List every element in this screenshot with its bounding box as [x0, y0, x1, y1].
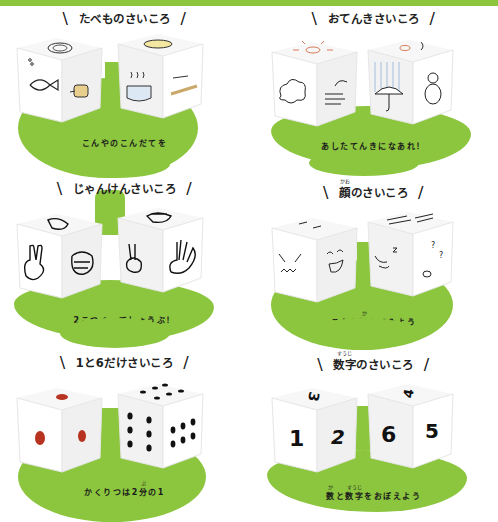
die-number: 5 [425, 419, 439, 443]
die-food-right [113, 26, 208, 121]
ruby-kao: 顔かお [339, 184, 351, 200]
backslash-deco: \ [60, 353, 66, 372]
panel-number-dice: \数字すうじのさいころ/ 3 1 2 4 6 5 数かずと数字すうじをおぼえよう [249, 340, 498, 510]
ruby-suuji: 数字すうじ [333, 356, 356, 372]
die-one-pips [12, 380, 107, 475]
panel-face-dice: \顔かおのさいころ/ ?? こんな顔かおしてみよう [249, 170, 498, 340]
die-face-right: ?? [363, 204, 458, 299]
red-pip [56, 394, 68, 400]
die-weather-left [267, 34, 362, 129]
panel-title: \1と6だけさいころ/ [0, 352, 249, 371]
panel-title: \じゃんけんさいころ/ [0, 178, 249, 197]
green-background-blob-top [309, 318, 419, 348]
ruby-suuji: 数字すうじ [345, 490, 364, 501]
caption: 数かずと数字すうじをおぼえよう [249, 490, 498, 501]
svg-text:?: ? [431, 241, 435, 250]
green-background-blob-top [60, 150, 170, 178]
panel-janken-dice: \じゃんけんさいころ/ 2こつくってしょうぶ！ [0, 170, 249, 340]
backslash-deco: \ [63, 9, 69, 28]
panel-1-and-6-dice: \1と6だけさいころ/ [0, 340, 249, 510]
backslash-deco: \ [312, 9, 318, 28]
slash-deco: / [186, 179, 192, 198]
panel-title: \たべものさいころ/ [0, 8, 249, 27]
slash-deco: / [418, 183, 424, 202]
die-food-left [12, 30, 107, 125]
die-face-left [267, 210, 362, 305]
die-weather-right [363, 32, 458, 127]
red-pip [78, 430, 86, 442]
backslash-deco: \ [323, 183, 329, 202]
green-background-blob-top [60, 318, 170, 348]
panel-title: \おてんきさいころ/ [249, 8, 498, 27]
die-six-pips [113, 376, 208, 471]
slash-deco: / [424, 355, 430, 374]
die-number: 2 [331, 425, 345, 449]
ruby-kazu: 数かず [326, 490, 336, 501]
svg-text:?: ? [439, 251, 443, 260]
ruby-bun: 分ぶん [139, 486, 149, 497]
die-janken-left [12, 206, 107, 301]
green-background-blob-top [309, 150, 419, 176]
red-pip [35, 431, 45, 445]
caption-line-1: こんやのこんだてを [0, 137, 249, 148]
die-number: 6 [381, 422, 396, 447]
caption: かくりつは2分ぶんの1 [0, 486, 249, 497]
panel-title: \顔かおのさいころ/ [249, 182, 498, 201]
die-numbers-left: 3 1 2 [267, 380, 362, 475]
slash-deco: / [430, 9, 436, 28]
panel-weather-dice: \おてんきさいころ/ あしたてんきになあれ！ [249, 0, 498, 170]
omelette-icon [144, 40, 172, 48]
backslash-deco: \ [317, 355, 323, 374]
die-numbers-right: 4 6 5 [363, 376, 458, 471]
backslash-deco: \ [57, 179, 63, 198]
panel-food-dice: \たべものさいころ/ こんやのこんだてを きめよう [0, 0, 249, 170]
slash-deco: / [183, 353, 189, 372]
die-janken-right [113, 200, 208, 295]
die-number: 1 [289, 426, 304, 451]
panel-title: \数字すうじのさいころ/ [249, 354, 498, 373]
